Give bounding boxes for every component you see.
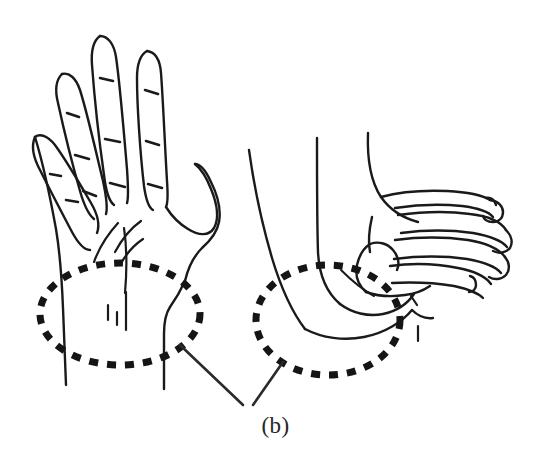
crease-little-finger-proximal xyxy=(66,200,78,202)
ring-fingertip-r xyxy=(489,257,509,279)
index-fingertip-nail xyxy=(486,198,496,205)
palm-crease-central xyxy=(124,228,126,293)
right-wrist-highlight-ellipse xyxy=(256,265,400,375)
index-finger-top-outline xyxy=(381,191,490,200)
crease-middle-finger-base xyxy=(110,183,125,187)
crease-index-finger-base xyxy=(148,184,162,188)
crease-ring-finger-distal xyxy=(67,113,79,117)
ring-finger-outline-r xyxy=(395,238,505,257)
palm-hypothenar-contour-r xyxy=(340,294,414,315)
thumb-web-line xyxy=(366,286,430,296)
thumb-outline-inner xyxy=(185,164,220,281)
crease-ring-finger-proximal xyxy=(75,155,89,159)
palm-radial-border xyxy=(164,281,185,389)
figure-container: (b) xyxy=(0,0,551,465)
palm-edge-down-r xyxy=(412,310,433,318)
right-leader-line xyxy=(253,362,283,405)
right-hand-panel xyxy=(249,133,512,375)
crease-middle-finger-distal xyxy=(100,78,113,81)
hand-illustration-svg xyxy=(0,0,551,465)
thumb-outline xyxy=(166,164,217,234)
crease-middle-finger-proximal xyxy=(105,139,120,142)
wrist-tick-right-2 xyxy=(411,296,417,305)
crease-index-finger-proximal xyxy=(146,141,159,145)
left-leader-line xyxy=(180,345,243,405)
little-finger-outline-inner xyxy=(35,135,98,233)
hand-dorsum-contour xyxy=(368,133,418,222)
index-finger-outline xyxy=(137,51,153,210)
palm-crease-distal xyxy=(115,221,141,252)
forearm-anterior-line xyxy=(317,138,340,304)
crease-index-finger-distal xyxy=(145,90,158,94)
palm-lower-contour-r xyxy=(305,310,412,339)
crease-little-finger-distal xyxy=(50,174,61,176)
left-hand-panel xyxy=(33,36,220,389)
thumb-ulnar-stroke xyxy=(369,217,372,252)
